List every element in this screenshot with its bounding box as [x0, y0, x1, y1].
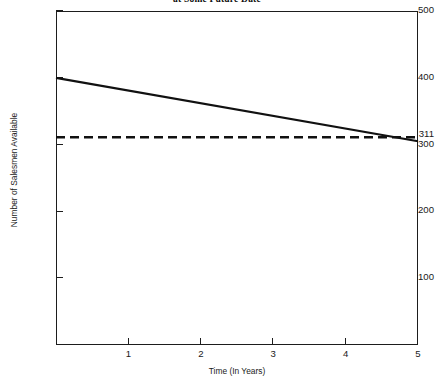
x-tick-label: 3 — [253, 348, 293, 359]
x-tick-label: 1 — [108, 348, 148, 359]
page-title: at Some Future Date — [0, 0, 434, 4]
x-tick-mark — [345, 338, 346, 345]
x-tick-label: 5 — [398, 348, 438, 359]
y-tick-label: 200 — [388, 204, 434, 215]
x-tick-mark — [128, 338, 129, 345]
plot-area — [56, 11, 418, 345]
y-tick-label: 500 — [388, 4, 434, 15]
x-tick-mark — [417, 338, 418, 345]
x-tick-label: 2 — [181, 348, 221, 359]
y-axis-title: Number of Salesmen Available — [9, 95, 19, 245]
x-tick-label: 4 — [326, 348, 366, 359]
x-tick-mark — [200, 338, 201, 345]
y-tick-mark — [56, 10, 63, 11]
x-axis-title: Time (In Years) — [56, 366, 418, 376]
y-tick-mark — [56, 144, 63, 145]
x-tick-mark — [272, 338, 273, 345]
y-tick-label: 100 — [388, 271, 434, 282]
y-axis-annotation-tick — [56, 137, 61, 138]
y-axis-annotation-label: 311 — [388, 128, 434, 139]
y-tick-mark — [56, 77, 63, 78]
y-tick-mark — [56, 277, 63, 278]
y-tick-label: 400 — [388, 71, 434, 82]
y-tick-mark — [56, 211, 63, 212]
